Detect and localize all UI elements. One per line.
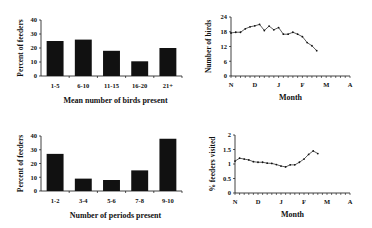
data-point (271, 163, 273, 165)
data-point (287, 33, 289, 35)
x-tick-label: 6-10 (77, 82, 89, 89)
data-point (282, 33, 284, 35)
x-tick-label: 3-4 (79, 197, 88, 204)
data-point (303, 158, 305, 160)
data-point (235, 31, 237, 33)
data-point (254, 25, 256, 27)
y-tick-label: 10 (31, 58, 38, 65)
y-tick-label: 0 (34, 72, 37, 79)
x-axis-label: Number of periods present (70, 211, 162, 220)
x-tick-label: M (324, 198, 330, 205)
bar (75, 40, 92, 76)
y-tick-label: 20 (31, 44, 38, 51)
x-tick-label: 1-5 (51, 82, 60, 89)
data-point (257, 161, 259, 163)
chart-feeders-visited-by-month: 00.511.52NDJFMAMonth% feeders visited (186, 114, 372, 228)
x-axis-label: Month (281, 210, 305, 219)
y-tick-label: 20 (31, 160, 38, 167)
x-tick-label: 5-6 (107, 197, 116, 204)
y-tick-label: 40 (31, 16, 38, 23)
y-tick-label: 0 (228, 189, 231, 196)
x-tick-label: A (348, 81, 353, 88)
data-line (231, 24, 317, 50)
y-tick-label: 2 (228, 131, 231, 138)
data-point (311, 45, 313, 47)
data-point (289, 164, 291, 166)
data-point (253, 161, 255, 163)
data-point (234, 160, 236, 162)
data-point (273, 29, 275, 31)
bar (47, 41, 64, 76)
data-point (302, 36, 304, 38)
chart-number-of-birds-by-month: 06121824NDJFMAMonthNumber of birds (186, 0, 372, 114)
data-point (276, 164, 278, 166)
x-tick-label: D (252, 81, 257, 88)
data-point (308, 154, 310, 156)
bar (159, 139, 176, 191)
data-point (243, 158, 245, 160)
data-point (266, 162, 268, 164)
data-point (297, 33, 299, 35)
bar (103, 51, 120, 76)
y-tick-label: 12 (221, 43, 228, 50)
x-tick-label: 11-15 (104, 82, 120, 89)
y-tick-label: 30 (31, 30, 38, 37)
data-point (306, 42, 308, 44)
y-tick-label: 0 (224, 72, 227, 79)
x-tick-label: F (300, 81, 304, 88)
bar (159, 48, 176, 76)
y-axis-label: Percent of feeders (16, 135, 25, 192)
y-tick-label: 6 (224, 58, 228, 65)
data-point (248, 159, 250, 161)
x-tick-label: F (302, 198, 306, 205)
y-axis-label: % feeders visited (208, 136, 217, 192)
x-tick-label: A (348, 198, 353, 205)
x-tick-label: 21+ (163, 82, 174, 89)
y-tick-label: 1.5 (223, 146, 232, 153)
bar (75, 179, 92, 191)
data-point (294, 164, 296, 166)
data-point (259, 23, 261, 25)
x-axis-label: Mean number of birds present (63, 96, 167, 105)
x-tick-label: 9-10 (162, 197, 174, 204)
bar (103, 180, 120, 191)
y-axis-label: Number of birds (204, 20, 213, 73)
data-point (278, 27, 280, 29)
y-tick-label: 1 (228, 160, 231, 167)
x-tick-label: D (256, 198, 261, 205)
data-point (280, 165, 282, 167)
x-axis-label: Month (279, 93, 303, 102)
data-point (285, 166, 287, 168)
chart-mean-birds-present: 0102030401-56-1011-1516-2021+Mean number… (0, 0, 186, 114)
x-tick-label: 16-20 (132, 82, 147, 89)
bar (47, 154, 64, 191)
bar-chart-2: 0102030401-23-45-67-89-10Number of perio… (0, 114, 186, 228)
data-point (263, 30, 265, 32)
y-tick-label: 18 (221, 28, 228, 35)
data-point (262, 161, 264, 163)
data-point (316, 50, 318, 52)
y-axis-label: Percent of feeders (16, 19, 25, 76)
data-point (317, 153, 319, 155)
y-tick-label: 0.5 (223, 175, 232, 182)
data-point (292, 31, 294, 33)
x-tick-label: 7-8 (135, 197, 144, 204)
data-point (249, 26, 251, 28)
data-point (268, 25, 270, 27)
y-tick-label: 30 (31, 146, 38, 153)
x-tick-label: M (323, 81, 329, 88)
chart-periods-present: 0102030401-23-45-67-89-10Number of perio… (0, 114, 186, 228)
data-point (312, 150, 314, 152)
y-tick-label: 40 (31, 132, 38, 139)
data-point (240, 31, 242, 33)
x-tick-label: J (279, 198, 283, 205)
line-chart-1: 06121824NDJFMAMonthNumber of birds (186, 0, 372, 114)
x-tick-label: N (233, 198, 238, 205)
x-tick-label: 1-2 (51, 197, 60, 204)
data-point (244, 28, 246, 30)
data-point (230, 32, 232, 34)
y-tick-label: 0 (34, 187, 37, 194)
bar-chart-1: 0102030401-56-1011-1516-2021+Mean number… (0, 0, 186, 114)
data-point (239, 157, 241, 159)
x-tick-label: N (229, 81, 234, 88)
